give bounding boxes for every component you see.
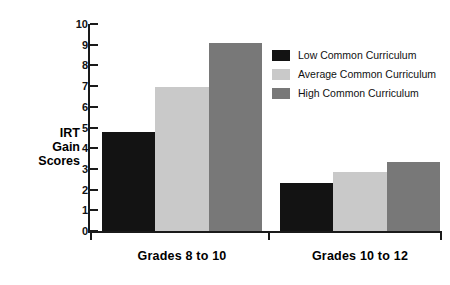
y-tick-label-3: 3: [66, 164, 88, 174]
x-axis-label-group-2: Grades 10 to 12: [280, 249, 440, 263]
x-axis-label-group-1: Grades 8 to 10: [102, 249, 262, 263]
legend-label-2: Average Common Curriculum: [298, 69, 436, 80]
legend: Low Common CurriculumAverage Common Curr…: [272, 47, 436, 104]
bar-high-group-2: [387, 162, 440, 231]
y-tick-label-10: 10: [66, 19, 88, 29]
bar-high-group-1: [209, 43, 262, 231]
legend-swatch-avg: [272, 69, 290, 80]
bar-low-group-2: [280, 183, 333, 231]
y-tick-label-0: 0: [66, 226, 88, 236]
bar-avg-group-1: [155, 87, 208, 231]
y-tick-label-7: 7: [66, 81, 88, 91]
bar-low-group-1: [102, 132, 155, 231]
y-tick-label-5: 5: [66, 123, 88, 133]
legend-swatch-high: [272, 88, 290, 99]
legend-item-2: Average Common Curriculum: [272, 66, 436, 83]
x-tick-3: [440, 233, 442, 240]
y-tick-label-6: 6: [66, 102, 88, 112]
y-tick-label-2: 2: [66, 185, 88, 195]
y-tick-label-9: 9: [66, 40, 88, 50]
y-tick-label-8: 8: [66, 60, 88, 70]
x-tick-2: [268, 233, 270, 240]
y-tick-label-4: 4: [66, 143, 88, 153]
x-tick-1: [90, 233, 92, 240]
bar-chart: IRT Gain Scores 012345678910 Grades 8 to…: [0, 0, 450, 285]
legend-item-1: Low Common Curriculum: [272, 47, 436, 64]
legend-label-1: Low Common Curriculum: [298, 50, 416, 61]
bar-avg-group-2: [333, 172, 386, 231]
legend-label-3: High Common Curriculum: [298, 88, 419, 99]
legend-swatch-low: [272, 50, 290, 61]
x-axis-line: [88, 231, 442, 233]
y-tick-label-1: 1: [66, 205, 88, 215]
legend-item-3: High Common Curriculum: [272, 85, 436, 102]
